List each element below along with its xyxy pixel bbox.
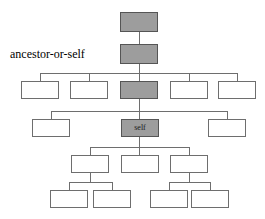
connector-n3c-to-bus4 [139,99,140,111]
tree-node[interactable] [70,81,108,99]
connector-drop-to-n5b [139,147,140,155]
tree-node-label: self [134,124,146,132]
tree-node[interactable] [120,81,158,99]
tree-diagram: self ancestor-or-self [0,0,265,219]
connector-drop-to-n5c [189,147,190,155]
tree-node[interactable] [21,81,59,99]
connector-drop-to-n4a [51,111,52,119]
tree-node[interactable] [208,119,246,137]
tree-node[interactable] [218,81,256,99]
connector-drop-to-n6a [69,182,70,190]
tree-node[interactable] [71,155,109,173]
tree-node[interactable] [32,119,70,137]
connector-drop-to-n4c [227,111,228,119]
tree-node[interactable] [170,155,208,173]
tree-node[interactable] [150,190,188,208]
connector-drop-to-self [139,111,140,119]
tree-node[interactable] [93,190,131,208]
connector-self-to-bus5 [139,137,140,147]
tree-node[interactable] [170,81,208,99]
tree-node[interactable] [120,12,158,32]
connector-drop-to-n5a [90,147,91,155]
connector-drop-to-n3d [189,73,190,81]
connector-drop-to-n6c [169,182,170,190]
connector-n5a-to-bus6-left [90,173,91,182]
connector-drop-to-n6d [210,182,211,190]
connector-root-to-level2 [139,32,140,44]
connector-drop-to-n3a [40,73,41,81]
connector-drop-to-n3c [139,73,140,81]
connector-level6-bus-right [169,182,210,183]
connector-drop-to-n6b [112,182,113,190]
connector-drop-to-n3b [89,73,90,81]
tree-node[interactable] [50,190,88,208]
tree-node[interactable] [191,190,229,208]
ancestor-or-self-annotation: ancestor-or-self [10,48,85,60]
tree-node[interactable] [120,44,158,64]
connector-drop-to-n3e [237,73,238,81]
connector-n5c-to-bus6-right [189,173,190,182]
connector-level6-bus-left [69,182,112,183]
tree-node[interactable] [121,155,159,173]
tree-node-self[interactable]: self [121,119,159,137]
